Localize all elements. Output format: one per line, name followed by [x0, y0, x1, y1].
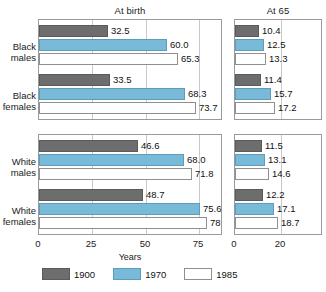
chart-legend: 1900 1970 1985 — [42, 268, 237, 280]
bar-value-1900: 46.6 — [138, 140, 160, 152]
bar-value-1900: 12.2 — [263, 189, 285, 201]
row-label-line1: White — [0, 156, 36, 167]
legend-label-1900: 1900 — [74, 269, 95, 280]
row-label-line1: Black — [0, 41, 36, 52]
bar-1900 — [235, 25, 259, 37]
bar-value-1970: 75.6 — [200, 203, 222, 215]
bar-value-1970: 17.1 — [274, 203, 296, 215]
bar-1985 — [235, 217, 278, 229]
legend-item-1985: 1985 — [184, 268, 237, 280]
x-axis-label: Years — [38, 252, 222, 262]
row-label-line2: males — [0, 167, 36, 178]
bar-1970 — [39, 154, 184, 166]
bar-group-white-females: 12.2 17.1 18.7 — [235, 188, 321, 232]
bar-value-1970: 60.0 — [167, 39, 189, 51]
bar-1970 — [39, 88, 185, 100]
bar-value-1985: 65.3 — [178, 53, 200, 65]
bar-1900 — [235, 140, 262, 152]
bar-value-1985: 73.7 — [196, 102, 218, 114]
row-label-white-males: White males — [0, 156, 36, 178]
bar-value-1900: 33.5 — [110, 74, 132, 86]
bar-value-1970: 13.1 — [265, 154, 287, 166]
plot-panel-at-birth-black: 32.5 60.0 65.3 33.5 68.3 73.7 — [38, 19, 222, 120]
life-expectancy-bar-chart: At birth At 65 Black males Black females… — [0, 0, 326, 292]
bar-1970 — [235, 88, 271, 100]
xtick-left-25: 25 — [79, 238, 103, 249]
legend-swatch-1900 — [42, 268, 70, 280]
bar-1900 — [39, 74, 110, 86]
panel-title-at-birth: At birth — [38, 5, 222, 16]
legend-swatch-1985 — [184, 268, 212, 280]
bar-value-1985: 14.6 — [269, 168, 291, 180]
bar-value-1900: 11.4 — [261, 74, 282, 86]
row-label-black-females: Black females — [0, 90, 36, 112]
bar-group-black-females: 33.5 68.3 73.7 — [39, 73, 221, 117]
bar-value-1985: 18.7 — [278, 217, 300, 229]
bar-1970 — [235, 203, 274, 215]
bar-group-white-females: 48.7 75.6 78.7 — [39, 188, 221, 232]
panel-title-at-65: At 65 — [234, 5, 322, 16]
row-label-line2: females — [0, 101, 36, 112]
bar-1900 — [39, 25, 108, 37]
bar-1900 — [39, 189, 143, 201]
bar-group-black-males: 32.5 60.0 65.3 — [39, 24, 221, 68]
row-label-line2: males — [0, 52, 36, 63]
bar-group-white-males: 46.6 68.0 71.8 — [39, 139, 221, 183]
bar-group-white-males: 11.5 13.1 14.6 — [235, 139, 321, 183]
bar-value-1970: 68.0 — [184, 154, 206, 166]
legend-swatch-1970 — [113, 268, 141, 280]
xtick-right-20: 20 — [268, 238, 292, 249]
bar-value-1985: 78.7 — [207, 217, 222, 229]
row-label-line1: Black — [0, 90, 36, 101]
bar-value-1970: 68.3 — [185, 88, 207, 100]
xtick-left-0: 0 — [26, 238, 50, 249]
plot-panel-at-birth-white: 46.6 68.0 71.8 48.7 75.6 78.7 — [38, 134, 222, 235]
bar-group-black-females: 11.4 15.7 17.2 — [235, 73, 321, 117]
row-label-white-females: White females — [0, 205, 36, 227]
legend-item-1900: 1900 — [42, 268, 95, 280]
bar-1985 — [39, 168, 192, 180]
bar-value-1985: 71.8 — [192, 168, 214, 180]
bar-value-1900: 32.5 — [108, 25, 130, 37]
bar-1985 — [235, 53, 266, 65]
bar-value-1985: 17.2 — [275, 102, 297, 114]
bar-1970 — [39, 203, 200, 215]
bar-1970 — [235, 154, 265, 166]
bar-value-1900: 48.7 — [143, 189, 165, 201]
xtick-left-75: 75 — [186, 238, 210, 249]
bar-value-1900: 10.4 — [259, 25, 281, 37]
bar-1900 — [235, 74, 261, 86]
legend-label-1970: 1970 — [145, 269, 166, 280]
bar-1985 — [235, 168, 269, 180]
bar-1985 — [39, 53, 178, 65]
bar-1985 — [39, 102, 196, 114]
bar-1985 — [235, 102, 275, 114]
legend-label-1985: 1985 — [216, 269, 237, 280]
row-label-black-males: Black males — [0, 41, 36, 63]
xtick-right-0: 0 — [222, 238, 246, 249]
plot-panel-at-65-black: 10.4 12.5 13.3 11.4 15.7 17.2 — [234, 19, 322, 120]
bar-value-1970: 12.5 — [264, 39, 286, 51]
xtick-left-50: 50 — [133, 238, 157, 249]
bar-1985 — [39, 217, 207, 229]
row-label-line1: White — [0, 205, 36, 216]
bar-group-black-males: 10.4 12.5 13.3 — [235, 24, 321, 68]
legend-item-1970: 1970 — [113, 268, 166, 280]
bar-value-1970: 15.7 — [271, 88, 293, 100]
plot-panel-at-65-white: 11.5 13.1 14.6 12.2 17.1 18.7 — [234, 134, 322, 235]
bar-value-1985: 13.3 — [266, 53, 288, 65]
bar-1900 — [39, 140, 138, 152]
bar-value-1900: 11.5 — [262, 140, 283, 152]
row-label-line2: females — [0, 216, 36, 227]
bar-1970 — [39, 39, 167, 51]
bar-1970 — [235, 39, 264, 51]
bar-1900 — [235, 189, 263, 201]
